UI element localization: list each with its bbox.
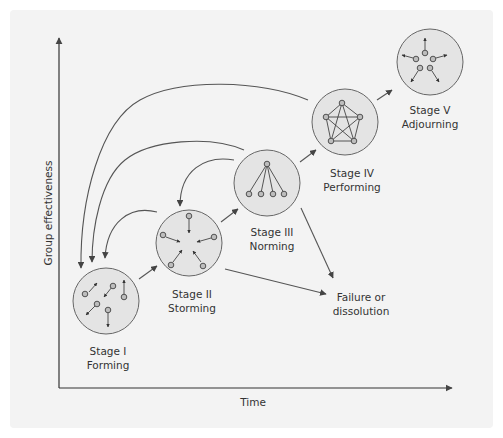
stage-3-label: Stage III Norming (250, 226, 295, 252)
failure-line-2: dissolution (333, 305, 390, 317)
stage-5-label: Stage V Adjourning (402, 104, 459, 130)
failure-label: Failure or dissolution (333, 291, 390, 317)
arrow-storming-to-norming (221, 209, 238, 222)
stage-3-name: Norming (250, 240, 295, 252)
stage-4-name: Performing (323, 181, 380, 193)
stage-5-adjourning-icon (397, 29, 463, 95)
stage-1-number: Stage I (90, 345, 127, 357)
arrow-storming-to-failure (225, 269, 326, 294)
stage-1-label: Stage I Forming (87, 345, 130, 371)
stage-2-label: Stage II Storming (168, 288, 216, 314)
stage-1-name: Forming (87, 359, 130, 371)
stage-4-number: Stage IV (330, 167, 375, 179)
failure-line-1: Failure or (337, 291, 386, 303)
arrow-storming-to-forming (105, 210, 157, 258)
stage-2-name: Storming (168, 302, 216, 314)
x-axis-label: Time (239, 396, 266, 408)
arrow-norming-to-performing (300, 150, 316, 162)
stage-1-forming-icon (73, 268, 139, 334)
stage-3-norming-icon (234, 150, 300, 216)
stage-4-label: Stage IV Performing (323, 167, 380, 193)
arrow-forming-to-storming (139, 266, 157, 279)
arrow-performing-to-adjourning (377, 90, 392, 100)
arrow-norming-to-storming (180, 159, 234, 206)
group-development-diagram: Time Group effectiveness (0, 0, 503, 438)
stage-3-number: Stage III (251, 226, 294, 238)
arrow-norming-to-failure (301, 208, 333, 278)
stage-5-number: Stage V (410, 104, 452, 116)
stage-5-name: Adjourning (402, 118, 459, 130)
stage-2-storming-icon (156, 210, 222, 276)
stage-4-performing-icon (312, 89, 378, 155)
stage-2-number: Stage II (172, 288, 212, 300)
y-axis-label: Group effectiveness (42, 161, 54, 266)
